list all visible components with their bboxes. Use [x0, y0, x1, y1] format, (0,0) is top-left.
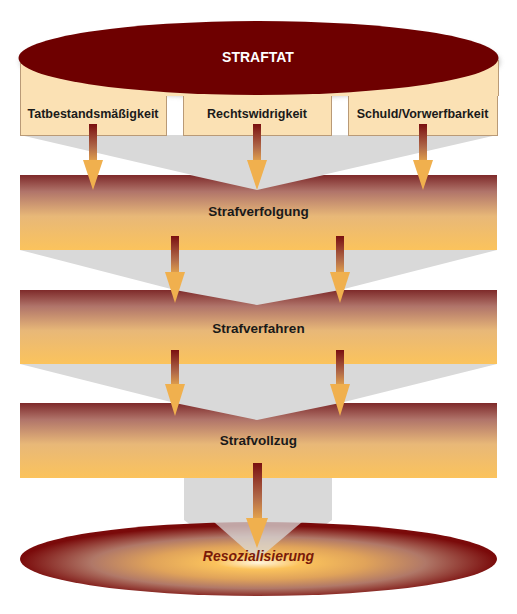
stage-label-strafverfahren: Strafverfahren [20, 321, 497, 336]
criterion-label-tatbestand: Tatbestandsmäßigkeit [20, 107, 166, 121]
stage-label-strafvollzug: Strafvollzug [20, 433, 497, 448]
straftat-title: STRAFTAT [18, 49, 498, 65]
outcome-label-resozialisierung: Resozialisierung [20, 548, 497, 564]
criterion-label-schuld: Schuld/Vorwerfbarkeit [348, 107, 497, 121]
criterion-label-rechtswidrigkeit: Rechtswidrigkeit [183, 107, 331, 121]
stage-label-strafverfolgung: Strafverfolgung [20, 204, 497, 219]
cylinder-body [20, 60, 499, 96]
